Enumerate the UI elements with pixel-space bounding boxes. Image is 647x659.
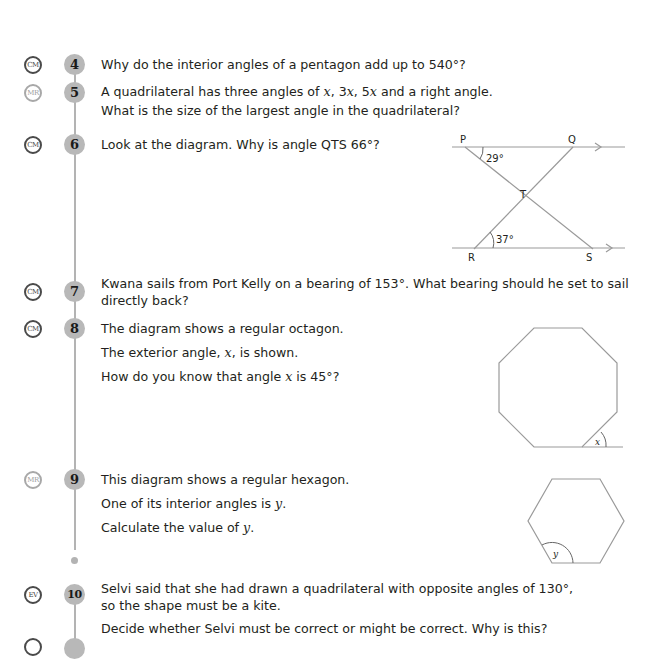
angle-x-label: x: [595, 437, 600, 447]
question-text: This diagram shows a regular hexagon. On…: [101, 470, 349, 538]
badge-mr: MR: [24, 471, 42, 489]
question-number: 5: [64, 82, 85, 103]
question-line: Decide whether Selvi must be correct or …: [101, 620, 573, 637]
point-r-label: R: [468, 252, 475, 263]
question-text: Why do the interior angles of a pentagon…: [101, 55, 466, 74]
question-number: 10: [64, 584, 85, 605]
question-text: The diagram shows a regular octagon. The…: [101, 319, 344, 387]
angle-y-label: y: [552, 549, 559, 559]
question-line: The exterior angle, x, is shown.: [101, 343, 344, 363]
question-number: 8: [64, 318, 85, 339]
badge-cm: CM: [24, 320, 42, 338]
question-line: so the shape must be a kite.: [101, 597, 573, 614]
question-line: Selvi said that she had drawn a quadrila…: [101, 580, 573, 597]
angle-37-label: 37°: [496, 234, 514, 245]
badge-cm: CM: [24, 56, 42, 74]
question-line: Calculate the value of y.: [101, 518, 349, 538]
point-t-label: T: [519, 189, 527, 200]
question-line: How do you know that angle x is 45°?: [101, 367, 344, 387]
question-number: 4: [64, 54, 85, 75]
question-line: This diagram shows a regular hexagon.: [101, 470, 349, 490]
badge-partial: [24, 638, 42, 656]
question-text: Look at the diagram. Why is angle QTS 66…: [101, 135, 380, 154]
question-line: A quadrilateral has three angles of x, 3…: [101, 82, 493, 101]
badge-mr: MR: [24, 84, 42, 102]
octagon-diagram: x: [460, 290, 647, 460]
point-q-label: Q: [568, 134, 576, 145]
question-number: 7: [64, 281, 85, 302]
question-line: The diagram shows a regular octagon.: [101, 319, 344, 339]
question-text: Selvi said that she had drawn a quadrila…: [101, 580, 573, 637]
angle-29-label: 29°: [486, 153, 504, 164]
question-line: Why do the interior angles of a pentagon…: [101, 55, 466, 74]
point-p-label: P: [460, 134, 466, 145]
badge-ev: EV: [24, 586, 42, 604]
question-number: 6: [64, 134, 85, 155]
parallel-lines-diagram: P Q T R S 29° 37°: [440, 125, 647, 265]
timeline-end-dot: [71, 557, 78, 564]
question-number: 9: [64, 469, 85, 490]
question-line: One of its interior angles is y.: [101, 494, 349, 514]
question-line: What is the size of the largest angle in…: [101, 101, 493, 120]
question-text: A quadrilateral has three angles of x, 3…: [101, 82, 493, 120]
point-s-label: S: [586, 252, 592, 263]
hexagon-diagram: y: [480, 460, 647, 570]
badge-cm: CM: [24, 283, 42, 301]
question-number-partial: [64, 638, 85, 659]
question-line: Look at the diagram. Why is angle QTS 66…: [101, 135, 380, 154]
badge-cm: CM: [24, 136, 42, 154]
